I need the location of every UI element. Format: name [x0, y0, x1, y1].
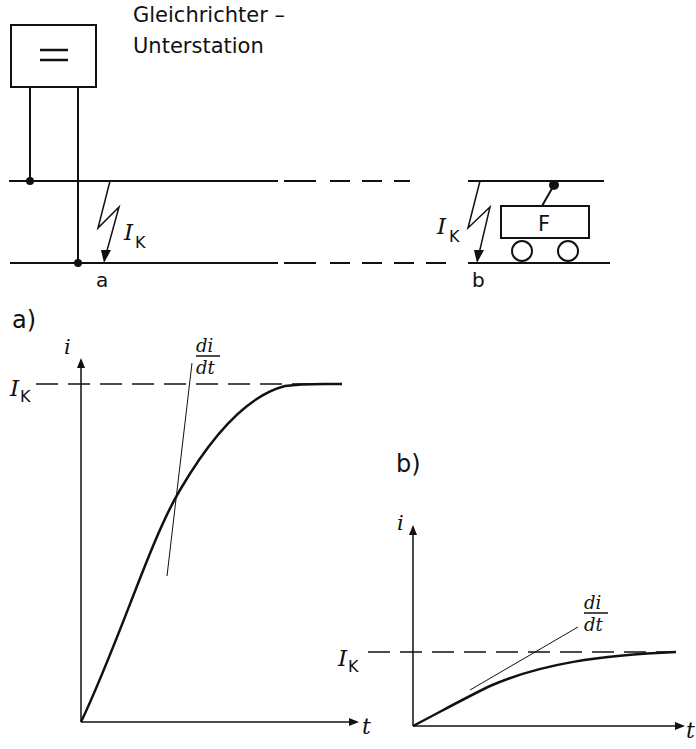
- fault-b-point-label: b: [472, 268, 485, 292]
- fault-a-point-label: a: [96, 268, 108, 292]
- substation: [11, 25, 96, 267]
- pantograph-arm: [542, 185, 554, 206]
- fault-b-lightning-arrow: [468, 181, 490, 263]
- chart-a-current-curve: [81, 384, 342, 722]
- substation-title-line2: Unterstation: [133, 34, 264, 58]
- chart-a-tangent-line: [167, 363, 192, 576]
- chart-b-current-curve: [413, 652, 676, 726]
- substation-title-line1: Gleichrichter –: [133, 3, 285, 27]
- chart-a-ik-subscript: K: [20, 387, 31, 406]
- substation-box: [11, 25, 96, 87]
- vehicle-label: F: [538, 212, 550, 236]
- diagram-canvas: Gleichrichter – Unterstation I K a I K b…: [0, 0, 696, 749]
- chart-b: [368, 527, 683, 726]
- fault-a-lightning-arrow: [98, 181, 119, 263]
- chart-a-ik-label: I: [9, 375, 20, 401]
- chart-b-tangent-line: [470, 627, 578, 690]
- chart-b-ik-label: I: [337, 645, 348, 671]
- vehicle-wheel-rear: [558, 241, 578, 261]
- chart-b-tangent-denominator: dt: [584, 614, 604, 635]
- fault-a-current-subscript: K: [135, 233, 146, 252]
- chart-a-tangent-numerator: di: [196, 335, 213, 356]
- chart-b-panel-label: b): [396, 450, 421, 478]
- fault-b-current-label: I: [436, 213, 447, 239]
- chart-b-ik-subscript: K: [348, 657, 359, 676]
- chart-a-tangent-denominator: dt: [196, 357, 216, 378]
- chart-b-y-axis-label: i: [397, 511, 404, 535]
- chart-b-tangent-numerator: di: [584, 592, 601, 613]
- chart-a-x-axis-label: t: [362, 714, 371, 739]
- chart-a: [36, 360, 357, 722]
- vehicle-wheel-front: [512, 241, 532, 261]
- chart-b-x-axis-label: t: [686, 718, 695, 743]
- fault-b-current-subscript: K: [449, 227, 460, 246]
- chart-a-y-axis-label: i: [64, 335, 71, 359]
- fault-a-current-label: I: [123, 219, 134, 245]
- chart-a-panel-label: a): [12, 306, 36, 334]
